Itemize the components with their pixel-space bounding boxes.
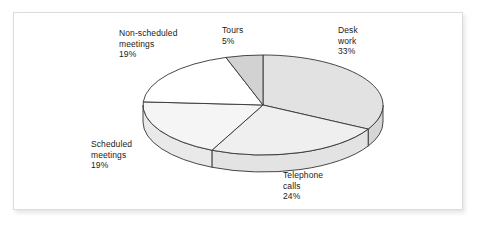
label-line-1: Non-scheduled	[119, 28, 177, 39]
pie-3d-top	[143, 55, 383, 155]
slice-label-scheduled-meetings: Scheduled meetings 19%	[91, 139, 132, 171]
label-value: 19%	[91, 160, 132, 171]
label-value: 19%	[119, 49, 177, 60]
slice-label-telephone-calls: Telephone calls 24%	[283, 170, 323, 202]
label-line-1: Telephone	[283, 170, 323, 181]
slice-label-desk-work: Desk work 33%	[338, 25, 358, 57]
label-value: 5%	[222, 36, 243, 47]
label-line-1: Desk	[338, 25, 358, 36]
slice-label-tours: Tours 5%	[222, 25, 243, 46]
pie-chart-figure: Non-scheduled meetings 19% Tours 5% Desk…	[0, 0, 478, 228]
label-line-1: Scheduled	[91, 139, 132, 150]
label-value: 24%	[283, 191, 323, 202]
label-line-2: meetings	[119, 39, 177, 50]
label-value: 33%	[338, 46, 358, 57]
label-line-2: calls	[283, 181, 323, 192]
label-line-2: work	[338, 36, 358, 47]
slice-label-non-scheduled-meetings: Non-scheduled meetings 19%	[119, 28, 177, 60]
label-line-2: meetings	[91, 150, 132, 161]
label-line-1: Tours	[222, 25, 243, 36]
